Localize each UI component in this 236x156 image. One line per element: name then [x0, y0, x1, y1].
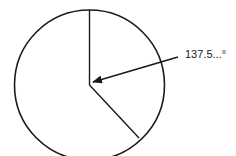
- circle-diagram: [0, 0, 236, 156]
- radius-angled: [90, 85, 140, 138]
- arrow-icon: [93, 57, 178, 82]
- angle-label: 137.5...°: [185, 48, 226, 60]
